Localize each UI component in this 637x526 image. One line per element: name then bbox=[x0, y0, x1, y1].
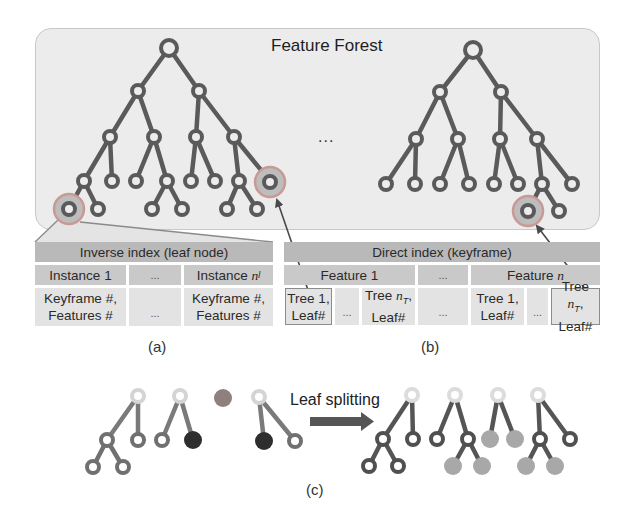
caption-a: (a) bbox=[148, 338, 166, 355]
direct-index-feature-1: Feature 1 bbox=[284, 265, 415, 285]
inverse-index-instance-n: Instance nl bbox=[184, 265, 273, 285]
inverse-index-value-1: Keyframe #, Features # bbox=[35, 288, 126, 326]
light-leaf-node bbox=[444, 457, 462, 475]
direct-index-leaf-ellipsis-a: ... bbox=[335, 288, 359, 325]
light-leaf-node bbox=[546, 457, 564, 475]
light-leaf-node bbox=[506, 430, 524, 448]
direct-index-leaf-tree1-b: Tree 1, Leaf# bbox=[471, 288, 524, 325]
direct-index-leaf-treenT-b: Tree nT, Leaf# bbox=[551, 288, 600, 325]
diagram-graphics bbox=[0, 0, 637, 526]
dark-leaf-node bbox=[255, 432, 273, 450]
inverse-index-instance-ellipsis: ... bbox=[129, 265, 181, 285]
light-leaf-node bbox=[517, 457, 535, 475]
direct-index-feature-ellipsis: ... bbox=[418, 265, 468, 285]
var-n: n bbox=[252, 267, 259, 284]
split-before-nodes bbox=[87, 389, 301, 473]
caption-b: (b) bbox=[421, 338, 439, 355]
split-after-trees bbox=[369, 395, 570, 466]
caption-c: (c) bbox=[306, 481, 324, 498]
inverse-index-value-n: Keyframe #, Features # bbox=[184, 288, 273, 326]
direct-index-leaf-ellipsis-mid: ... bbox=[418, 288, 468, 325]
inverse-index-value-ellipsis: ... bbox=[129, 288, 181, 326]
direct-index-leaf-ellipsis-b: ... bbox=[527, 288, 548, 325]
inverse-index-instance-1: Instance 1 bbox=[35, 265, 126, 285]
light-leaf-node bbox=[481, 430, 499, 448]
dark-leaf-node bbox=[184, 431, 202, 449]
direct-index-header: Direct index (keyframe) bbox=[284, 242, 600, 262]
inverse-index-header: Inverse index (leaf node) bbox=[35, 242, 273, 262]
leaf-splitting-label: Leaf splitting bbox=[290, 391, 380, 409]
standalone-node bbox=[214, 389, 232, 407]
direct-index-leaf-treenT-a: Tree nT, Leaf# bbox=[362, 288, 415, 325]
direct-index-leaf-tree1-a: Tree 1, Leaf# bbox=[285, 288, 332, 325]
leaf-splitting-arrow bbox=[310, 412, 374, 431]
light-leaf-node bbox=[473, 457, 491, 475]
